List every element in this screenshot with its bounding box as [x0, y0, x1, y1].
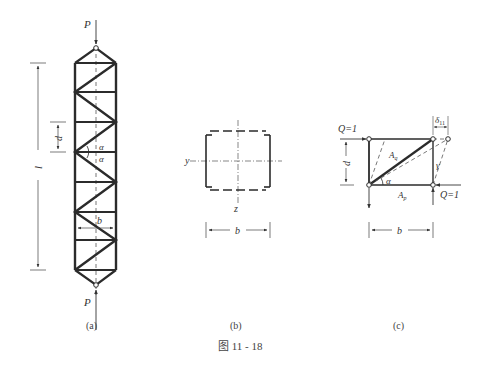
displacement-delta-label: δ11	[435, 115, 445, 126]
panel-a-annotations: P P l d b α α (a)	[30, 18, 113, 332]
panel-a-label: (a)	[86, 320, 97, 332]
figure-caption: 图 11 - 18	[218, 340, 263, 352]
figure-canvas: P P l d b α α (a) y z	[0, 0, 484, 374]
panel-b-section	[190, 120, 282, 205]
load-p-top: P	[83, 18, 91, 30]
axis-y-label: y	[184, 155, 190, 166]
axis-z-label: z	[233, 203, 238, 214]
force-q-top: Q=1	[338, 123, 357, 134]
width-b-c-label: b	[397, 225, 402, 236]
post-area-label: Ap	[397, 190, 407, 201]
angle-alpha-lower: α	[99, 154, 104, 164]
panel-c-label: (c)	[393, 320, 404, 332]
panel-a-truss	[75, 40, 116, 295]
angle-alpha-c: α	[386, 176, 391, 186]
panel-b-annotations: y z b (b)	[184, 155, 270, 332]
angle-alpha-upper: α	[99, 142, 104, 152]
shear-gamma-label: γ	[436, 160, 440, 170]
diag-area-label: Aq	[388, 150, 398, 161]
section-width-b: b	[235, 225, 240, 236]
width-b-label: b	[97, 215, 102, 226]
panel-b-label: (b)	[230, 320, 242, 332]
length-l-label: l	[32, 166, 44, 169]
panel-c-annotations: Q=1 Q=1 d δ11 Aq Ap α γ b (c)	[338, 115, 461, 332]
load-p-bottom: P	[83, 296, 91, 308]
force-q-bottom: Q=1	[440, 189, 459, 200]
height-d-label: d	[341, 160, 352, 166]
panel-d-label: d	[53, 135, 64, 141]
